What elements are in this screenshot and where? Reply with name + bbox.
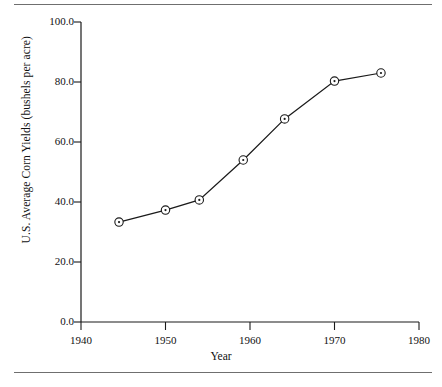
- data-point-center-dot: [198, 199, 200, 201]
- y-tick-label: 60.0: [26, 135, 74, 147]
- data-point-center-dot: [380, 72, 382, 74]
- data-point-markers: [115, 69, 385, 227]
- y-tick-label: 80.0: [26, 75, 74, 87]
- y-tick-label: 20.0: [26, 255, 74, 267]
- y-tick-label: 0.0: [26, 315, 74, 327]
- x-tick-label: 1980: [389, 334, 442, 346]
- line-chart-plot: [0, 0, 442, 387]
- x-tick-label: 1960: [220, 334, 280, 346]
- y-axis-title-wrap: U.S. Average Corn Yields (bushels per ac…: [2, 36, 28, 306]
- x-tick-label: 1950: [136, 334, 196, 346]
- x-axis-title: Year: [0, 350, 442, 362]
- y-axis-title: U.S. Average Corn Yields (bushels per ac…: [20, 36, 32, 243]
- data-line: [119, 73, 381, 222]
- data-point-center-dot: [242, 159, 244, 161]
- y-axis-ticks: [74, 22, 81, 322]
- data-point-center-dot: [118, 221, 120, 223]
- x-tick-label: 1970: [305, 334, 365, 346]
- data-point-center-dot: [164, 209, 166, 211]
- data-point-center-dot: [333, 80, 335, 82]
- y-tick-label: 100.0: [26, 15, 74, 27]
- x-axis-ticks: [81, 322, 419, 330]
- figure-page: 0.020.040.060.080.0100.0 194019501960197…: [0, 0, 442, 387]
- x-tick-label: 1940: [51, 334, 111, 346]
- y-tick-label: 40.0: [26, 195, 74, 207]
- data-point-center-dot: [284, 118, 286, 120]
